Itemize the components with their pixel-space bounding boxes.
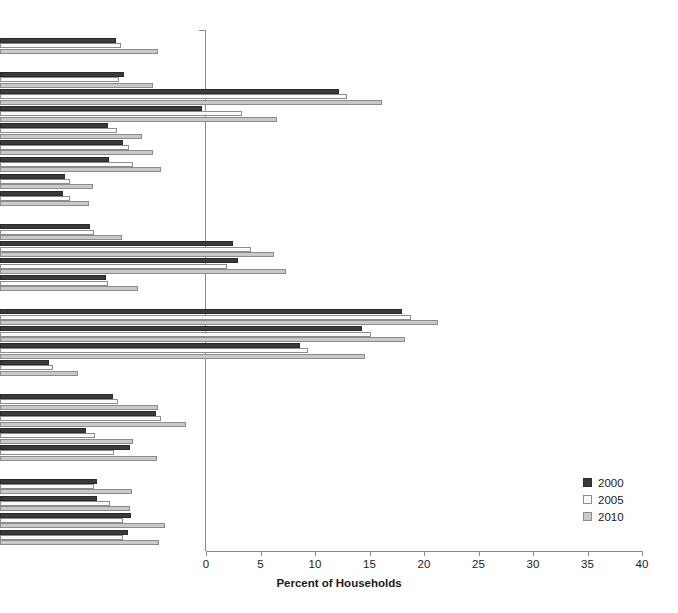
bar-2000	[0, 174, 65, 179]
bar-2010	[0, 83, 153, 88]
x-tick	[315, 551, 316, 556]
bar-2000	[0, 360, 49, 365]
bar-2005	[0, 43, 121, 48]
bar-2005	[0, 247, 251, 252]
bar-2000	[0, 89, 339, 94]
bar-2010	[0, 337, 405, 342]
bar-2010	[0, 167, 161, 172]
bar-2000	[0, 38, 116, 43]
legend-item: 2000	[583, 474, 624, 491]
bar-2000	[0, 326, 362, 331]
bar-2005	[0, 94, 347, 99]
bar-2005	[0, 111, 242, 116]
x-tick-label: 30	[527, 558, 540, 570]
x-axis-title: Percent of Households	[0, 577, 678, 589]
bar-2000	[0, 123, 108, 128]
bar-2010	[0, 235, 122, 240]
bar-2010	[0, 320, 438, 325]
bar-2010	[0, 49, 158, 54]
bar-2005	[0, 433, 95, 438]
x-tick-label: 0	[203, 558, 209, 570]
legend-swatch-icon	[583, 512, 592, 521]
bar-chart: All HouseholdsHousehold Composition:Marr…	[0, 0, 678, 613]
legend-label: 2000	[598, 477, 624, 489]
x-tick	[588, 551, 589, 556]
bar-2000	[0, 496, 97, 501]
bar-2010	[0, 134, 142, 139]
bar-2000	[0, 241, 233, 246]
bar-2005	[0, 484, 94, 489]
x-tick	[424, 551, 425, 556]
x-tick	[642, 551, 643, 556]
legend-swatch-icon	[583, 478, 592, 487]
x-tick-label: 10	[309, 558, 322, 570]
x-tick-label: 20	[418, 558, 431, 570]
bar-2010	[0, 252, 274, 257]
bar-2010	[0, 405, 158, 410]
bar-2005	[0, 365, 53, 370]
bar-2000	[0, 411, 156, 416]
bar-2000	[0, 445, 130, 450]
bar-2005	[0, 450, 114, 455]
y-axis-line	[205, 30, 206, 551]
bar-2010	[0, 540, 159, 545]
bar-2005	[0, 145, 129, 150]
bar-2005	[0, 77, 119, 82]
x-tick	[206, 551, 207, 556]
bar-2005	[0, 230, 94, 235]
x-tick-label: 15	[363, 558, 376, 570]
bar-2005	[0, 281, 108, 286]
bar-2010	[0, 523, 165, 528]
bar-2010	[0, 184, 93, 189]
bar-2000	[0, 140, 123, 145]
bar-2000	[0, 106, 202, 111]
bar-2010	[0, 422, 186, 427]
bar-2005	[0, 332, 371, 337]
x-tick	[479, 551, 480, 556]
x-tick	[533, 551, 534, 556]
bar-2000	[0, 428, 86, 433]
bar-2005	[0, 162, 133, 167]
bar-2005	[0, 535, 123, 540]
legend-label: 2010	[598, 511, 624, 523]
bar-2010	[0, 371, 78, 376]
bar-2005	[0, 128, 117, 133]
bar-2010	[0, 286, 138, 291]
bar-2000	[0, 275, 106, 280]
bar-2005	[0, 399, 118, 404]
bar-2000	[0, 343, 300, 348]
bar-2000	[0, 530, 128, 535]
bar-2010	[0, 354, 365, 359]
x-tick-label: 5	[257, 558, 263, 570]
x-tick-label: 40	[636, 558, 649, 570]
bar-2005	[0, 315, 411, 320]
x-tick	[261, 551, 262, 556]
bar-2005	[0, 518, 123, 523]
legend-item: 2010	[583, 508, 624, 525]
bar-2000	[0, 191, 63, 196]
legend-swatch-icon	[583, 495, 592, 504]
bar-2010	[0, 506, 130, 511]
x-tick-label: 35	[581, 558, 594, 570]
bar-2000	[0, 157, 109, 162]
bar-2000	[0, 479, 97, 484]
x-tick	[370, 551, 371, 556]
bar-2005	[0, 264, 227, 269]
bar-2010	[0, 269, 286, 274]
bar-2000	[0, 513, 131, 518]
x-tick-label: 25	[472, 558, 485, 570]
bar-2010	[0, 439, 133, 444]
legend-label: 2005	[598, 494, 624, 506]
bar-2000	[0, 258, 238, 263]
bar-2005	[0, 416, 161, 421]
bar-2005	[0, 501, 110, 506]
bar-2010	[0, 150, 153, 155]
legend: 200020052010	[583, 474, 624, 525]
bar-2010	[0, 100, 382, 105]
bar-2010	[0, 117, 277, 122]
bar-2000	[0, 394, 113, 399]
bar-2010	[0, 201, 89, 206]
bar-2005	[0, 348, 308, 353]
bar-2010	[0, 456, 157, 461]
bar-2000	[0, 309, 402, 314]
